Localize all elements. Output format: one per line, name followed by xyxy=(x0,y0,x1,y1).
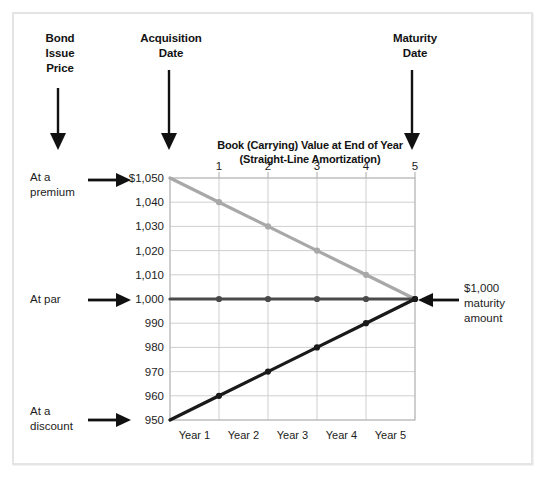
grid-lines xyxy=(170,172,415,420)
plot-area xyxy=(0,0,546,484)
data-point xyxy=(363,296,369,302)
data-point xyxy=(314,296,320,302)
data-point xyxy=(314,344,320,350)
data-point xyxy=(216,199,222,205)
data-point xyxy=(216,296,222,302)
data-point xyxy=(363,272,369,278)
series-line xyxy=(170,178,415,299)
data-point xyxy=(412,296,418,302)
series-line xyxy=(170,299,415,420)
data-point xyxy=(363,320,369,326)
data-point xyxy=(314,248,320,254)
data-point xyxy=(265,223,271,229)
data-point xyxy=(265,369,271,375)
data-point xyxy=(265,296,271,302)
data-series-group xyxy=(170,178,418,420)
data-point xyxy=(216,393,222,399)
